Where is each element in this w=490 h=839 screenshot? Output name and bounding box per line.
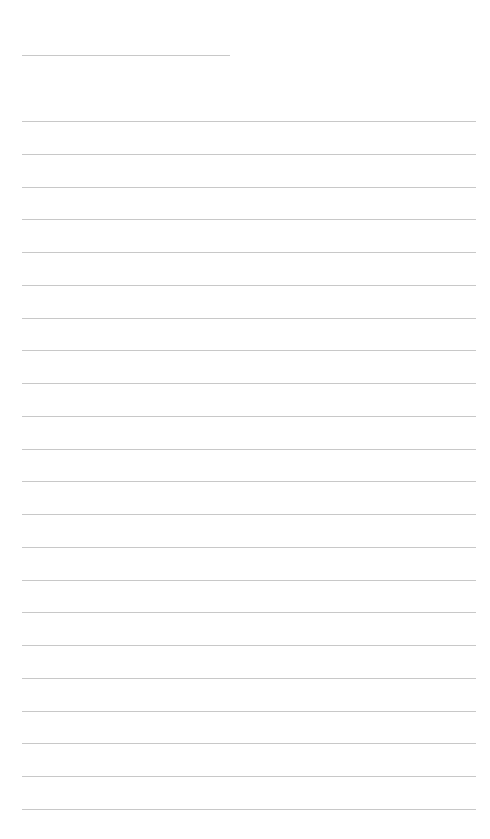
writing-line bbox=[22, 743, 476, 744]
writing-line bbox=[22, 678, 476, 679]
writing-line bbox=[22, 580, 476, 581]
writing-line bbox=[22, 514, 476, 515]
writing-line bbox=[22, 187, 476, 188]
writing-line bbox=[22, 383, 476, 384]
writing-line bbox=[22, 776, 476, 777]
writing-line bbox=[22, 809, 476, 810]
writing-line bbox=[22, 416, 476, 417]
writing-line bbox=[22, 449, 476, 450]
writing-line bbox=[22, 154, 476, 155]
writing-line bbox=[22, 711, 476, 712]
lined-page bbox=[0, 0, 490, 839]
writing-line bbox=[22, 481, 476, 482]
writing-lines bbox=[0, 0, 490, 839]
writing-line bbox=[22, 121, 476, 122]
writing-line bbox=[22, 285, 476, 286]
writing-line bbox=[22, 350, 476, 351]
writing-line bbox=[22, 547, 476, 548]
writing-line bbox=[22, 612, 476, 613]
writing-line bbox=[22, 645, 476, 646]
writing-line bbox=[22, 252, 476, 253]
writing-line bbox=[22, 318, 476, 319]
writing-line bbox=[22, 219, 476, 220]
